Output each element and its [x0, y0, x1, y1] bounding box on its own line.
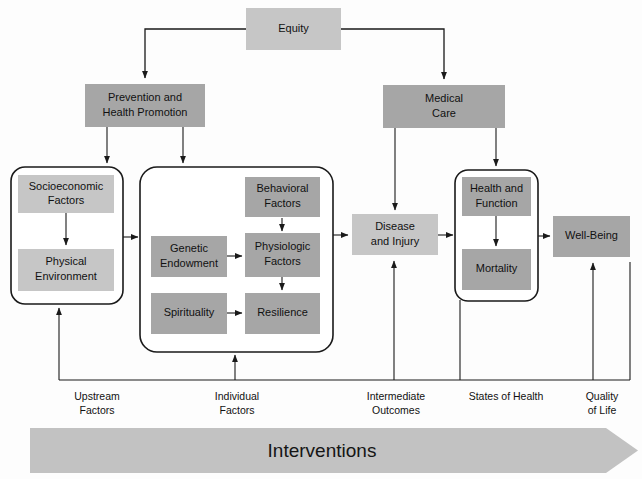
node-behavioral-label-line1: Behavioral	[257, 182, 309, 194]
axis-quality-line1: Quality	[586, 390, 619, 402]
node-physical-environment-label-line1: Physical	[46, 255, 87, 267]
axis-upstream-line1: Upstream	[74, 390, 120, 402]
node-resilience[interactable]: Resilience	[245, 293, 320, 334]
node-well-being-label: Well-Being	[565, 229, 618, 241]
interventions-banner-label: Interventions	[268, 440, 377, 461]
node-physiologic-factors[interactable]: Physiologic Factors	[245, 233, 320, 277]
interventions-banner: Interventions	[30, 428, 638, 473]
node-genetic-label-line2: Endowment	[160, 257, 218, 269]
node-socioeconomic-label-line2: Factors	[48, 194, 85, 206]
node-genetic-label-line1: Genetic	[170, 242, 208, 254]
node-physical-environment[interactable]: Physical Environment	[18, 249, 114, 291]
node-spirituality-label: Spirituality	[164, 306, 215, 318]
node-well-being[interactable]: Well-Being	[553, 216, 630, 257]
axis-label-upstream-factors: Upstream Factors	[74, 390, 120, 416]
node-prevention-label-line1: Prevention and	[108, 91, 182, 103]
node-behavioral-label-line2: Factors	[264, 197, 301, 209]
node-mortality-label: Mortality	[476, 262, 518, 274]
node-disease-label-line2: and Injury	[371, 235, 420, 247]
node-mortality[interactable]: Mortality	[462, 249, 531, 290]
node-medical-care[interactable]: Medical Care	[383, 85, 505, 128]
node-prevention-and-health-promotion[interactable]: Prevention and Health Promotion	[85, 84, 205, 127]
axis-intermediate-line1: Intermediate	[367, 390, 426, 402]
diagram-canvas: Equity Prevention and Health Promotion M…	[0, 0, 642, 479]
node-resilience-label: Resilience	[257, 306, 308, 318]
connector-equity-to-prevention	[145, 29, 246, 78]
node-disease-and-injury[interactable]: Disease and Injury	[352, 214, 438, 255]
axis-label-individual-factors: Individual Factors	[215, 390, 259, 416]
node-medical-care-label-line1: Medical	[425, 92, 463, 104]
node-disease-label-line1: Disease	[375, 220, 415, 232]
axis-label-intermediate-outcomes: Intermediate Outcomes	[367, 390, 426, 416]
axis-states-line1: States of Health	[469, 390, 544, 402]
axis-label-states-of-health: States of Health	[469, 390, 544, 402]
node-physical-environment-label-line2: Environment	[35, 270, 97, 282]
node-medical-care-label-line2: Care	[432, 107, 456, 119]
axis-intermediate-line2: Outcomes	[372, 404, 420, 416]
axis-individual-line1: Individual	[215, 390, 259, 402]
axis-individual-line2: Factors	[219, 404, 254, 416]
node-health-and-function[interactable]: Health and Function	[462, 177, 531, 216]
axis-upstream-line2: Factors	[79, 404, 114, 416]
node-socioeconomic-factors[interactable]: Socioeconomic Factors	[18, 175, 114, 213]
connector-equity-to-medical-care	[341, 29, 444, 79]
node-genetic-endowment[interactable]: Genetic Endowment	[151, 236, 227, 277]
node-prevention-label-line2: Health Promotion	[103, 106, 188, 118]
axis-label-quality-of-life: Quality of Life	[586, 390, 619, 416]
node-equity[interactable]: Equity	[246, 8, 341, 50]
node-equity-label: Equity	[278, 22, 309, 34]
node-physiologic-label-line1: Physiologic	[255, 240, 311, 252]
node-socioeconomic-label-line1: Socioeconomic	[29, 180, 104, 192]
node-spirituality[interactable]: Spirituality	[151, 293, 227, 334]
node-health-function-label-line1: Health and	[470, 182, 523, 194]
node-behavioral-factors[interactable]: Behavioral Factors	[245, 177, 320, 217]
node-physiologic-label-line2: Factors	[264, 255, 301, 267]
node-health-function-label-line2: Function	[475, 197, 517, 209]
axis-quality-line2: of Life	[588, 404, 617, 416]
determinants-of-health-diagram: Equity Prevention and Health Promotion M…	[0, 0, 642, 479]
